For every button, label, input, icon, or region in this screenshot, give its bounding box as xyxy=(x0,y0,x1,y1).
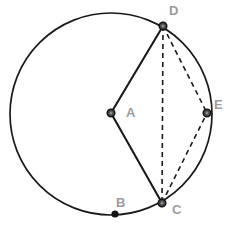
vertex-markers xyxy=(107,22,211,217)
vertex-point-core-e xyxy=(206,112,209,115)
geometry-diagram: A B C D E xyxy=(0,0,234,229)
vertex-label-e: E xyxy=(214,97,223,112)
vertex-point-core-a xyxy=(110,112,113,115)
segment-a-c xyxy=(111,113,162,203)
segment-d-c xyxy=(162,26,163,203)
vertex-label-b: B xyxy=(116,195,125,210)
vertex-point-core-c xyxy=(161,202,164,205)
vertex-label-a: A xyxy=(126,105,136,120)
segment-d-e xyxy=(163,26,207,113)
vertex-label-d: D xyxy=(169,3,178,18)
vertex-point-core-d xyxy=(162,25,165,28)
vertex-point-b xyxy=(111,210,118,217)
vertex-label-c: C xyxy=(172,202,182,217)
segment-c-e xyxy=(162,113,207,203)
segment-a-d xyxy=(111,26,163,113)
geometry-canvas: A B C D E xyxy=(0,0,234,229)
